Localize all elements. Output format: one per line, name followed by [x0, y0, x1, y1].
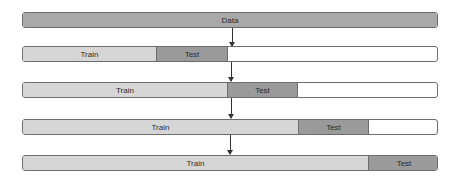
train-segment: Train [23, 156, 368, 170]
test-label: Test [326, 123, 341, 132]
data-segment: Data [23, 13, 437, 27]
test-segment: Test [227, 83, 298, 97]
train-segment: Train [23, 47, 156, 61]
split-row-2: Train Test [22, 82, 438, 98]
train-segment: Train [23, 120, 298, 134]
train-segment: Train [23, 83, 227, 97]
test-label: Test [185, 50, 200, 59]
test-label: Test [397, 159, 412, 168]
test-segment: Test [368, 156, 438, 170]
split-row-4: Train Test [22, 155, 438, 171]
arrow-down-icon [231, 98, 232, 118]
test-label: Test [255, 86, 270, 95]
arrow-down-icon [231, 62, 232, 81]
test-segment: Test [156, 47, 228, 61]
train-label: Train [81, 50, 99, 59]
test-segment: Test [298, 120, 369, 134]
arrow-down-icon [232, 28, 233, 46]
data-label: Data [222, 16, 239, 25]
train-label: Train [116, 86, 134, 95]
arrow-down-icon [230, 135, 231, 154]
train-label: Train [152, 123, 170, 132]
train-label: Train [187, 159, 205, 168]
data-bar: Data [22, 12, 438, 28]
split-row-1: Train Test [22, 46, 438, 62]
split-row-3: Train Test [22, 119, 438, 135]
